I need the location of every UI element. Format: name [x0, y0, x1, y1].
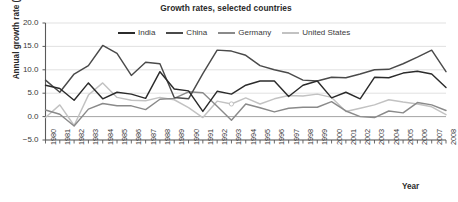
- y-tick-label: −5.0: [9, 135, 39, 144]
- data-point-marker: [229, 102, 233, 106]
- x-tick-label: 2000: [335, 129, 344, 145]
- x-tick-label: 1980: [49, 129, 58, 145]
- x-tick-label: 1984: [106, 129, 115, 145]
- series-line-china: [46, 45, 447, 98]
- y-tick-label: 15.0: [9, 41, 39, 50]
- x-tick-label: 1987: [149, 129, 158, 145]
- x-tick-label: 2007: [435, 129, 444, 145]
- x-tick-label: 2008: [449, 129, 458, 145]
- y-tick-label: 20.0: [9, 18, 39, 27]
- gridlines: [46, 23, 447, 140]
- x-tick-label: 1993: [234, 129, 243, 145]
- x-tick-label: 1989: [177, 129, 186, 145]
- x-tick-label: 1991: [206, 129, 215, 145]
- y-tick-label: 10.0: [9, 65, 39, 74]
- axis-lines: [46, 23, 447, 140]
- x-tick-label: 2005: [406, 129, 415, 145]
- x-tick-label: 1990: [192, 129, 201, 145]
- x-tick-label: 1997: [292, 129, 301, 145]
- x-tick-label: 2001: [349, 129, 358, 145]
- x-tick-label: 1995: [263, 129, 272, 145]
- x-tick-label: 1985: [120, 129, 129, 145]
- x-tick-label: 1998: [306, 129, 315, 145]
- x-tick-label: 1992: [220, 129, 229, 145]
- x-tick-label: 2004: [392, 129, 401, 145]
- x-tick-label: 1986: [134, 129, 143, 145]
- x-tick-label: 1982: [77, 129, 86, 145]
- x-tick-label: 1988: [163, 129, 172, 145]
- x-tick-label: 1994: [249, 129, 258, 145]
- x-tick-label: 2002: [363, 129, 372, 145]
- series-line-india: [46, 71, 447, 111]
- series-lines: [46, 45, 447, 126]
- x-tick-label: 2006: [420, 129, 429, 145]
- x-tick-label: 1996: [277, 129, 286, 145]
- x-tick-label: 2003: [377, 129, 386, 145]
- y-tick-label: 0.0: [9, 112, 39, 121]
- x-tick-label: 1983: [91, 129, 100, 145]
- x-tick-label: 1981: [63, 129, 72, 145]
- y-tick-label: 5.0: [9, 88, 39, 97]
- x-tick-label: 1999: [320, 129, 329, 145]
